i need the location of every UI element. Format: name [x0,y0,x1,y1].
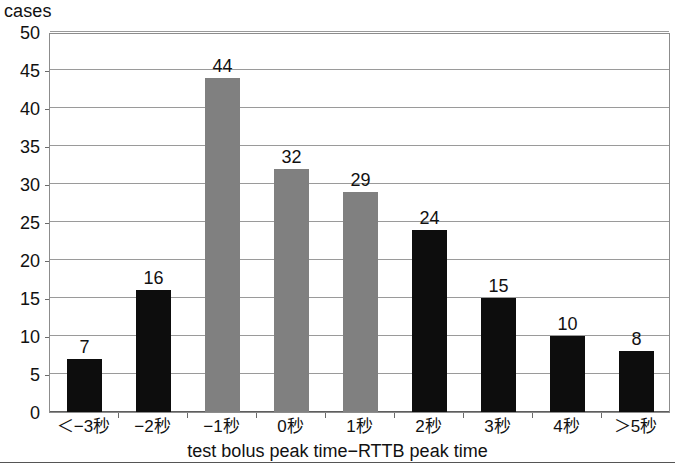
y-axis-unit-caption: cases [4,1,52,21]
y-axis-tick-label: 0 [30,404,40,422]
x-axis-tick-label: −2秒 [134,416,170,438]
bar-2秒 [412,230,447,412]
bar-1秒 [343,192,378,412]
y-axis-tick-label: 15 [20,290,40,308]
bar-chart-figure: cases 05101520253035404550 7164432292415… [0,0,675,468]
bar-＜−3秒 [67,359,102,412]
bar-value-label: 8 [631,330,641,348]
x-axis-tick-label-layer: ＜−3秒−2秒−1秒0秒1秒2秒3秒4秒＞5秒 [49,416,670,442]
bar-value-label: 32 [281,148,301,166]
y-axis-tick-label: 50 [20,24,40,42]
bar-value-label: 29 [350,171,370,189]
bottom-divider-rule [0,462,675,463]
bar-value-label: 15 [488,277,508,295]
bar-value-label: 16 [143,269,163,287]
plot-area: 7164432292415108 [49,33,670,413]
gridline-50 [50,31,669,32]
bar-series-layer: 7164432292415108 [50,34,669,412]
y-axis-tick-label: 40 [20,100,40,118]
x-axis-tick-label: ＜−3秒 [57,416,110,438]
y-axis-tick-label: 10 [20,328,40,346]
y-axis-tick-label: 20 [20,252,40,270]
bar-value-label: 24 [419,209,439,227]
y-axis-tick-label: 30 [20,176,40,194]
y-axis-tick-label: 5 [30,366,40,384]
y-axis-tick-label: 25 [20,214,40,232]
bar-3秒 [481,298,516,412]
bar-value-label: 10 [557,315,577,333]
bar-＞5秒 [619,351,654,412]
x-axis-title: test bolus peak time−RTTB peak time [0,440,675,462]
x-axis-tick-label: 2秒 [415,416,441,438]
bar-value-label: 7 [79,338,89,356]
x-axis-tick-label: 1秒 [346,416,372,438]
x-axis-tick-label: 4秒 [553,416,579,438]
y-axis-tick-label: 35 [20,138,40,156]
bar-4秒 [550,336,585,412]
bar-−1秒 [205,78,240,412]
y-axis-tick-label-layer: 05101520253035404550 [0,33,44,413]
x-axis-tick-label: 3秒 [484,416,510,438]
y-axis-tick-label: 45 [20,62,40,80]
x-axis-tick-label: ＞5秒 [614,416,657,438]
bar-0秒 [274,169,309,412]
bar-−2秒 [136,290,171,412]
x-axis-tick-label: 0秒 [277,416,303,438]
bar-value-label: 44 [212,57,232,75]
x-axis-tick-label: −1秒 [203,416,239,438]
